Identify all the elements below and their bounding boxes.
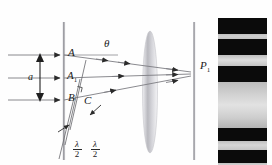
- label-point-A: A: [68, 47, 75, 58]
- fringe-band: [218, 128, 267, 141]
- converging-lens: [143, 31, 158, 153]
- fringe-band: [218, 150, 267, 163]
- slit-width-dimension: [36, 53, 44, 102]
- label-halfwave-right: λ 2: [88, 140, 102, 159]
- fringe-band: [218, 18, 267, 34]
- fringe-band: [218, 163, 267, 165]
- label-point-B: B: [68, 92, 75, 103]
- fringe-pattern: [218, 18, 267, 165]
- incoming-rays: [8, 55, 60, 100]
- observation-screen: [193, 22, 195, 160]
- fringe-band: [218, 66, 267, 82]
- label-screen-point-P1: P1: [200, 60, 210, 74]
- label-point-A1: A1: [67, 70, 77, 84]
- fringe-band: [218, 141, 267, 150]
- label-slit-width-a: a: [28, 72, 33, 82]
- label-angle-theta: θ: [104, 38, 109, 49]
- label-point-C: C: [84, 95, 91, 106]
- diffraction-figure: A A1 B C a θ P1 λ 2 λ 2: [0, 0, 272, 165]
- fringe-band: [218, 82, 267, 128]
- fringe-band: [218, 39, 267, 55]
- fringe-band: [218, 55, 267, 66]
- label-halfwave-left: λ 2: [70, 140, 84, 159]
- wavefront-line-2: [65, 79, 80, 145]
